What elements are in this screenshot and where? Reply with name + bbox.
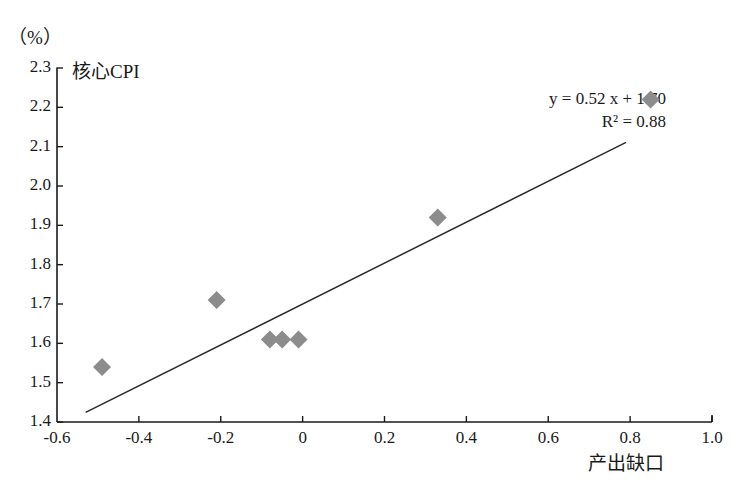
data-point-marker-3: [273, 330, 291, 348]
y-tick-label: 2.2: [7, 96, 51, 116]
trendline: [86, 142, 626, 412]
scatter-chart-figure: （%） 核心CPI y = 0.52 x + 1.70 R² = 0.88 产出…: [0, 0, 746, 495]
x-tick-label: 0.6: [518, 428, 578, 448]
y-tick-label: 2.3: [7, 57, 51, 77]
data-point-marker-4: [290, 330, 308, 348]
y-tick-label: 1.5: [7, 372, 51, 392]
y-tick-label: 2.1: [7, 136, 51, 156]
data-point-marker-1: [208, 291, 226, 309]
data-point-markers: [93, 90, 660, 375]
tick-marks-group: [57, 68, 712, 422]
x-tick-label: 1.0: [682, 428, 742, 448]
x-tick-label: -0.6: [27, 428, 87, 448]
axes-group: [57, 68, 712, 423]
data-point-marker-5: [429, 208, 447, 226]
x-tick-label: 0: [273, 428, 333, 448]
trendline-path: [86, 142, 626, 412]
y-tick-label: 1.7: [7, 293, 51, 313]
x-tick-label: 0.4: [436, 428, 496, 448]
x-tick-label: -0.2: [191, 428, 251, 448]
x-tick-label: 0.2: [355, 428, 415, 448]
y-tick-label: 1.6: [7, 332, 51, 352]
y-tick-label: 1.8: [7, 254, 51, 274]
data-point-marker-0: [93, 358, 111, 376]
x-tick-label: 0.8: [600, 428, 660, 448]
data-point-marker-6: [642, 90, 660, 108]
plot-area: [0, 0, 746, 495]
y-tick-label: 2.0: [7, 175, 51, 195]
x-tick-label: -0.4: [109, 428, 169, 448]
y-tick-label: 1.9: [7, 214, 51, 234]
